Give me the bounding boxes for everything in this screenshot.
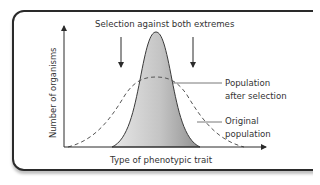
- label-after-selection-2: after selection: [225, 92, 287, 101]
- after-selection-curve: [112, 32, 200, 147]
- label-original-2: population: [225, 130, 271, 139]
- label-original-1: Original: [225, 117, 259, 126]
- label-after-selection-1: Population: [225, 79, 270, 88]
- x-axis-label: Type of phenotypic trait: [110, 156, 212, 165]
- y-axis-label: Number of organisms: [49, 48, 57, 138]
- diagram-title: Selection against both extremes: [95, 20, 234, 29]
